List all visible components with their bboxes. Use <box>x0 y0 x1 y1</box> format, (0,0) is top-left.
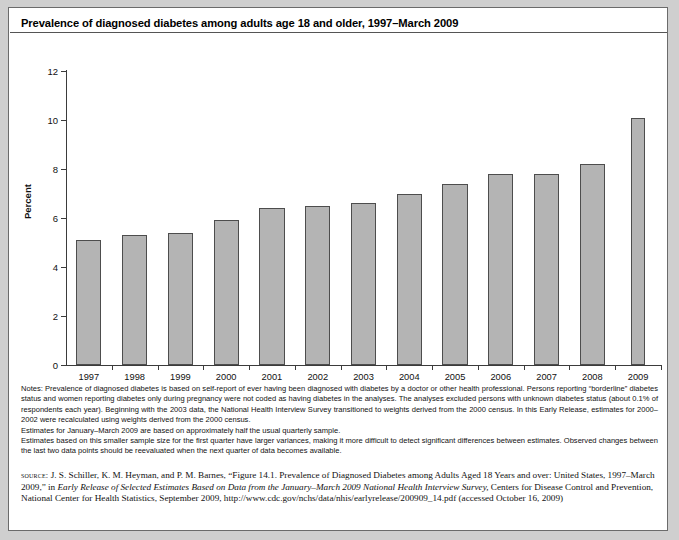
bar-2009 <box>631 118 645 365</box>
bar-2006 <box>488 174 513 365</box>
source-text-italic: Early Release of Selected Estimates Base… <box>58 482 489 492</box>
x-axis-tick-label-2005: 2005 <box>445 372 466 382</box>
x-axis-tick-mark <box>158 365 159 370</box>
bar-2008 <box>580 164 605 365</box>
figure-container: Prevalence of diagnosed diabetes among a… <box>8 7 668 531</box>
bar-2002 <box>305 206 330 365</box>
y-axis-tick-mark <box>61 169 66 170</box>
x-axis-tick-label-2002: 2002 <box>307 372 328 382</box>
bar-chart: Percent 024681012 1997199819992000200120… <box>9 34 667 379</box>
y-axis-label: Percent <box>22 184 33 219</box>
x-axis-tick-label-2000: 2000 <box>216 372 237 382</box>
x-axis-tick-label-2006: 2006 <box>490 372 511 382</box>
figure-source: source: J. S. Schiller, K. M. Heyman, an… <box>21 470 658 505</box>
y-axis-tick-label: 6 <box>53 213 58 224</box>
x-axis-tick-mark <box>478 365 479 370</box>
x-axis-tick-label-1999: 1999 <box>170 372 191 382</box>
y-axis-tick-label: 8 <box>53 164 58 175</box>
bar-1997 <box>76 240 101 365</box>
x-axis-tick-label-2003: 2003 <box>353 372 374 382</box>
x-axis-tick-label-2007: 2007 <box>536 372 557 382</box>
x-axis-tick-mark <box>386 365 387 370</box>
x-axis-tick-label-1998: 1998 <box>124 372 145 382</box>
bar-2000 <box>214 220 239 365</box>
x-axis-tick-label-2004: 2004 <box>399 372 420 382</box>
x-axis-tick-mark <box>112 365 113 370</box>
y-axis-tick-mark <box>61 316 66 317</box>
y-axis-tick-mark <box>61 365 66 366</box>
bar-2004 <box>397 194 422 366</box>
figure-notes: Notes: Prevalence of diagnosed diabetes … <box>21 384 658 457</box>
page-background: Prevalence of diagnosed diabetes among a… <box>0 0 679 540</box>
title-divider <box>10 32 667 33</box>
x-axis-tick-label-2008: 2008 <box>582 372 603 382</box>
bar-2001 <box>259 208 284 365</box>
y-axis-tick-mark <box>61 267 66 268</box>
x-axis-tick-mark <box>569 365 570 370</box>
x-axis-tick-mark <box>295 365 296 370</box>
y-axis-tick-label: 12 <box>47 66 58 77</box>
note-paragraph-2: Estimates for January–March 2009 are bas… <box>21 426 658 436</box>
plot-area: 024681012 <box>66 71 661 365</box>
bar-2003 <box>351 203 376 365</box>
y-axis-tick-mark <box>61 218 66 219</box>
bar-1999 <box>168 233 193 365</box>
bar-1998 <box>122 235 147 365</box>
y-axis-tick-mark <box>61 71 66 72</box>
x-axis-tick-mark <box>249 365 250 370</box>
page-title: Prevalence of diagnosed diabetes among a… <box>21 17 651 29</box>
x-axis-tick-label-2001: 2001 <box>262 372 283 382</box>
x-axis-line <box>66 365 662 366</box>
y-axis-tick-label: 2 <box>53 311 58 322</box>
y-axis-tick-label: 10 <box>47 115 58 126</box>
x-axis-tick-mark <box>203 365 204 370</box>
y-axis-tick-label: 0 <box>53 360 58 371</box>
x-axis-tick-mark <box>524 365 525 370</box>
x-axis-tick-mark <box>661 365 662 370</box>
bar-2005 <box>442 184 467 365</box>
note-paragraph-3: Estimates based on this smaller sample s… <box>21 436 658 457</box>
x-axis-tick-mark <box>432 365 433 370</box>
x-axis-tick-label-2009: 2009 <box>628 372 649 382</box>
y-axis-tick-label: 4 <box>53 262 58 273</box>
source-label: source: <box>21 471 48 480</box>
y-axis-tick-mark <box>61 120 66 121</box>
x-axis-tick-mark <box>341 365 342 370</box>
note-paragraph-1: Notes: Prevalence of diagnosed diabetes … <box>21 384 658 426</box>
x-axis-tick-label-1997: 1997 <box>79 372 100 382</box>
bar-2007 <box>534 174 559 365</box>
x-axis-tick-mark <box>615 365 616 370</box>
